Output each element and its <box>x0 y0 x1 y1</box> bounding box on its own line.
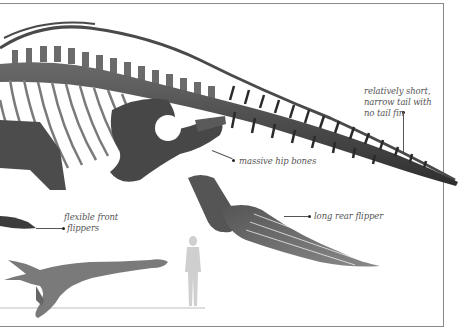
rear-flipper-leader-line <box>284 216 308 217</box>
label-tail-line1: relatively short, <box>364 86 432 97</box>
front-flipper <box>0 216 36 229</box>
tail-leader-line <box>403 112 404 152</box>
rear-flipper-leader-dot <box>308 215 311 218</box>
human-silhouette <box>185 236 201 306</box>
label-tail: relatively short, narrow tail with no ta… <box>364 86 432 119</box>
label-tail-line3: no tail fin <box>364 108 432 119</box>
skeleton-illustration <box>0 0 462 332</box>
shoulder-girdle <box>0 120 66 190</box>
label-front-flipper-line2: flippers <box>64 223 118 234</box>
hip-leader-dot <box>232 159 235 162</box>
reconstruction-silhouette <box>4 259 168 318</box>
label-rear-flipper: long rear flipper <box>314 211 383 222</box>
front-flipper-leader-line <box>36 228 62 229</box>
label-front-flipper: flexible front flippers <box>64 212 118 234</box>
label-tail-line2: narrow tail with <box>364 97 432 108</box>
label-front-flipper-line1: flexible front <box>64 212 118 223</box>
label-hip: massive hip bones <box>239 156 316 167</box>
